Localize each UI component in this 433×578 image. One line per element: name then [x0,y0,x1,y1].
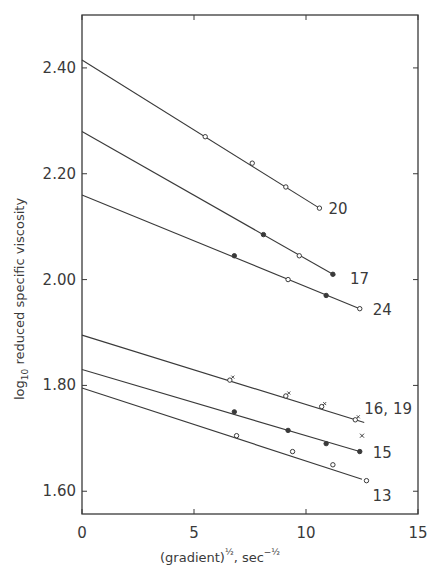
series-line-24 [82,195,360,309]
data-point [261,232,265,236]
plot-border [82,15,418,514]
data-point [290,449,294,453]
series-labels: 20172416, 191513 [328,200,412,505]
series-line-17 [82,131,335,275]
x-tick-label: 10 [296,524,315,542]
viscosity-chart: 2.402.202.001.801.60 051015 20172416, 19… [0,0,433,578]
data-point [203,135,207,139]
series-label: 13 [372,487,391,505]
plot-frame [82,15,418,514]
data-point [297,254,301,258]
series-points [203,135,369,483]
x-tick-label: 0 [77,524,87,542]
cross-marker [357,415,360,418]
data-point [358,306,362,310]
series-label: 15 [373,444,392,462]
data-point [331,463,335,467]
cross-marker [231,376,234,379]
y-tick-label: 2.40 [43,59,76,77]
series-line-13 [82,388,362,479]
y-tick-label: 1.80 [43,376,76,394]
x-axis-title: (gradient)½, sec−½ [160,547,280,565]
data-point [250,161,254,165]
series-lines [82,60,364,479]
data-point [284,185,288,189]
cross-marker [360,434,364,438]
data-point [286,428,290,432]
x-tick-label: 15 [408,524,427,542]
cross-marker [287,391,290,394]
data-point [331,272,335,276]
y-tick-label: 2.20 [43,165,76,183]
series-label: 16, 19 [364,400,412,418]
data-point [324,293,328,297]
y-axis-title: log10 reduced specific viscosity [12,198,30,400]
data-point [317,206,321,210]
series-line-15 [82,370,360,452]
series-label: 20 [328,200,347,218]
data-point [364,478,368,482]
series-label: 17 [350,270,369,288]
data-point [286,277,290,281]
cross-marker [323,402,326,405]
x-axis-ticks: 051015 [77,15,427,542]
x-tick-label: 5 [189,524,199,542]
data-point [324,441,328,445]
series-label: 24 [373,301,392,319]
series-line-1619 [82,335,364,422]
data-point [358,449,362,453]
y-tick-label: 1.60 [43,482,76,500]
data-point [234,433,238,437]
data-point [232,410,236,414]
data-point [232,254,236,258]
y-tick-label: 2.00 [43,271,76,289]
